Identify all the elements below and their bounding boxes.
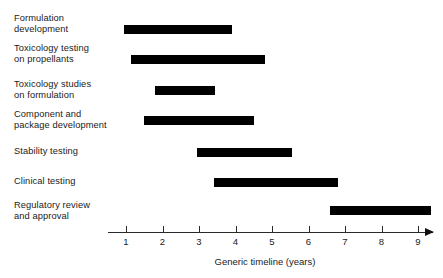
x-axis-tick-label-1: 1: [116, 236, 136, 247]
gantt-bar-toxicology-testing-propellants: [131, 55, 264, 64]
x-axis-tick-label-4: 4: [226, 236, 246, 247]
x-axis-tick-8: [382, 226, 383, 232]
x-axis-tick-2: [163, 226, 164, 232]
task-label-formulation-development: Formulation development: [14, 13, 118, 34]
x-axis-tick-label-9: 9: [408, 236, 428, 247]
gantt-bar-formulation-development: [124, 25, 232, 34]
gantt-bar-toxicology-studies-formulation: [155, 86, 215, 95]
x-axis-tick-label-8: 8: [372, 236, 392, 247]
x-axis-title: Generic timeline (years): [150, 256, 380, 267]
task-label-toxicology-testing-propellants: Toxicology testing on propellants: [14, 43, 118, 64]
x-axis-tick-label-2: 2: [153, 236, 173, 247]
x-axis-tick-label-7: 7: [335, 236, 355, 247]
gantt-bar-regulatory-review-approval: [330, 206, 430, 215]
gantt-bar-clinical-testing: [214, 178, 338, 187]
task-label-clinical-testing: Clinical testing: [14, 176, 118, 187]
task-label-stability-testing: Stability testing: [14, 146, 118, 157]
gantt-bar-stability-testing: [197, 148, 292, 157]
x-axis-tick-1: [126, 226, 127, 232]
gantt-chart: Formulation development Toxicology testi…: [0, 0, 443, 278]
task-label-regulatory-review-approval: Regulatory review and approval: [14, 200, 118, 221]
x-axis-arrowhead-icon: [425, 228, 434, 236]
x-axis-tick-label-6: 6: [299, 236, 319, 247]
x-axis-tick-3: [199, 226, 200, 232]
task-label-toxicology-studies-formulation: Toxicology studies on formulation: [14, 79, 118, 100]
x-axis-tick-9: [418, 226, 419, 232]
x-axis-tick-6: [309, 226, 310, 232]
x-axis-tick-label-5: 5: [262, 236, 282, 247]
task-label-component-package-development: Component and package development: [14, 109, 118, 130]
x-axis-line: [108, 232, 433, 233]
x-axis-tick-4: [236, 226, 237, 232]
x-axis-tick-7: [345, 226, 346, 232]
gantt-bar-component-package-development: [144, 116, 254, 125]
x-axis-tick-label-3: 3: [189, 236, 209, 247]
x-axis-tick-5: [272, 226, 273, 232]
